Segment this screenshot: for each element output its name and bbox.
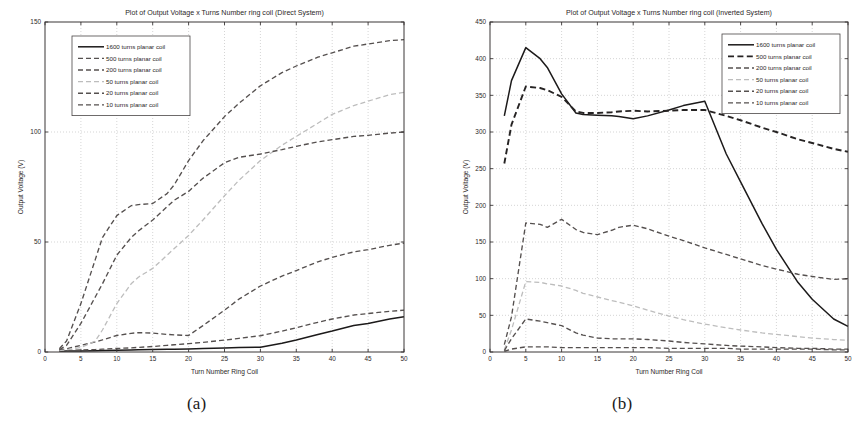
x-tick-label: 45 — [809, 355, 817, 362]
x-tick-label: 20 — [185, 355, 193, 362]
x-tick-label: 35 — [737, 355, 745, 362]
y-tick-label: 0 — [482, 348, 486, 355]
x-tick-label: 30 — [701, 355, 709, 362]
x-tick-label: 40 — [773, 355, 781, 362]
legend-label-5: 10 turns planar coil — [756, 99, 808, 106]
legend-label-0: 1600 turns planar coil — [106, 43, 165, 50]
x-axis-label: Turn Number Ring Coil — [191, 368, 259, 376]
x-tick-label: 5 — [79, 355, 83, 362]
x-tick-label: 25 — [221, 355, 229, 362]
chart-title: Plot of Output Voltage x Turns Number ri… — [566, 9, 772, 17]
x-tick-label: 25 — [665, 355, 673, 362]
x-tick-label: 45 — [365, 355, 373, 362]
x-tick-label: 35 — [293, 355, 301, 362]
y-tick-label: 150 — [475, 238, 486, 245]
x-tick-label: 50 — [844, 355, 852, 362]
y-tick-label: 0 — [37, 348, 41, 355]
x-tick-label: 5 — [524, 355, 528, 362]
x-tick-label: 0 — [488, 355, 492, 362]
series-line-3 — [504, 282, 848, 350]
x-tick-label: 30 — [257, 355, 265, 362]
panel-b-inverted-system: Plot of Output Voltage x Turns Number ri… — [426, 0, 852, 392]
series-line-4 — [504, 319, 848, 351]
legend-label-1: 500 turns planar coil — [106, 55, 162, 62]
series-line-2 — [59, 243, 404, 350]
x-tick-label: 0 — [43, 355, 47, 362]
x-tick-label: 10 — [113, 355, 121, 362]
panel-a-direct-system: Plot of Output Voltage x Turns Number ri… — [0, 0, 426, 392]
x-tick-label: 20 — [630, 355, 638, 362]
y-axis-label: Output Voltage (V) — [17, 160, 25, 214]
caption-a: (a) — [187, 394, 206, 414]
legend-label-2: 200 turns planar coil — [106, 66, 162, 73]
y-tick-label: 400 — [475, 55, 486, 62]
y-tick-label: 450 — [475, 18, 486, 25]
figure-two-panel-plots: Plot of Output Voltage x Turns Number ri… — [0, 0, 852, 434]
series-line-1 — [59, 310, 404, 351]
y-tick-label: 100 — [30, 128, 41, 135]
y-tick-label: 300 — [475, 128, 486, 135]
series-line-5 — [504, 347, 848, 351]
legend-label-3: 50 turns planar coil — [756, 76, 808, 83]
y-tick-label: 150 — [30, 18, 41, 25]
chart-title: Plot of Output Voltage x Turns Number ri… — [125, 9, 324, 17]
y-tick-label: 50 — [34, 238, 42, 245]
y-tick-label: 200 — [475, 202, 486, 209]
x-axis-label: Turn Number Ring Coil — [635, 368, 703, 376]
x-tick-label: 15 — [594, 355, 602, 362]
caption-b: (b) — [612, 394, 632, 414]
series-line-4 — [59, 132, 404, 350]
series-line-2 — [504, 219, 848, 344]
legend-label-0: 1600 turns planar coil — [756, 41, 815, 48]
series-line-3 — [59, 92, 404, 350]
legend-label-4: 20 turns planar coil — [106, 89, 158, 96]
series-line-0 — [59, 317, 404, 352]
chart-b-svg: Plot of Output Voltage x Turns Number ri… — [426, 0, 852, 392]
x-tick-label: 15 — [149, 355, 157, 362]
chart-a-svg: Plot of Output Voltage x Turns Number ri… — [0, 0, 426, 392]
legend-label-4: 20 turns planar coil — [756, 87, 808, 94]
y-axis-label: Output Voltage (V) — [462, 160, 470, 214]
y-tick-label: 50 — [479, 312, 487, 319]
y-tick-label: 350 — [475, 92, 486, 99]
caption-row: (a) (b) — [0, 392, 852, 434]
x-tick-label: 10 — [558, 355, 566, 362]
legend-label-5: 10 turns planar coil — [106, 101, 158, 108]
legend-label-3: 50 turns planar coil — [106, 78, 158, 85]
y-tick-label: 100 — [475, 275, 486, 282]
legend-label-1: 500 turns planar coil — [756, 53, 812, 60]
y-tick-label: 250 — [475, 165, 486, 172]
legend-label-2: 200 turns planar coil — [756, 64, 812, 71]
x-tick-label: 40 — [329, 355, 337, 362]
x-tick-label: 50 — [400, 355, 408, 362]
